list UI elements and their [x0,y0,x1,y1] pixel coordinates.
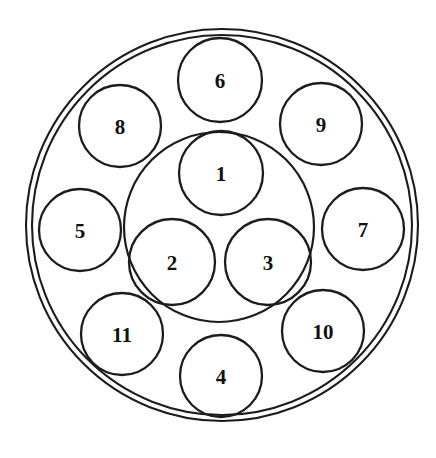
node-11[interactable]: 11 [81,293,163,375]
node-6[interactable]: 6 [178,38,262,122]
node-label-8: 8 [115,115,126,139]
node-label-2: 2 [167,251,178,275]
node-label-4: 4 [216,365,227,389]
circle-packing-diagram: 1234567891011 [0,0,436,458]
node-3[interactable]: 3 [225,219,311,305]
node-label-9: 9 [316,113,327,137]
node-label-6: 6 [215,69,226,93]
node-1[interactable]: 1 [179,131,263,215]
node-label-7: 7 [358,218,369,242]
node-7[interactable]: 7 [322,188,404,270]
node-9[interactable]: 9 [280,83,362,165]
node-label-11: 11 [112,323,132,347]
packing-canvas: 1234567891011 [0,0,436,458]
node-5[interactable]: 5 [39,189,121,271]
node-label-3: 3 [263,251,274,275]
node-label-5: 5 [75,219,86,243]
node-8[interactable]: 8 [79,85,161,167]
node-4[interactable]: 4 [180,335,262,417]
node-2[interactable]: 2 [129,219,215,305]
node-10[interactable]: 10 [282,290,364,372]
node-label-1: 1 [216,162,227,186]
node-label-10: 10 [313,320,334,344]
